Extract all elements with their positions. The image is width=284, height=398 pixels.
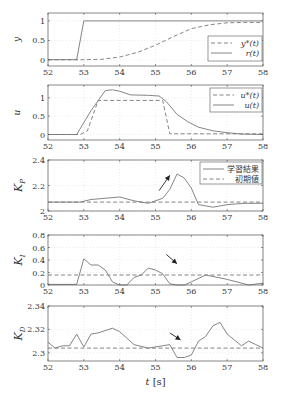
y-tick-label: 2.3 (32, 349, 45, 358)
x-tick-label: 57 (222, 287, 232, 296)
x-tick-label: 55 (150, 287, 160, 296)
x-tick-label: 53 (79, 142, 89, 151)
x-tick-label: 54 (115, 213, 125, 222)
subplot-ki: 5253545556575800.20.40.60.8KI (12, 231, 268, 296)
x-tick-label: 55 (150, 142, 160, 151)
x-tick-label: 52 (43, 142, 53, 151)
legend-label: 初期値 (235, 174, 259, 184)
x-tick-label: 53 (79, 68, 89, 77)
annotation-arrow-icon (166, 254, 177, 263)
y-tick-label: 0.2 (32, 269, 45, 278)
x-tick-label: 57 (222, 363, 232, 372)
x-tick-label: 54 (115, 142, 125, 151)
y-tick-label: 2.4 (32, 156, 45, 165)
y-tick-label: 0 (40, 56, 45, 65)
annotation-arrow-icon (159, 175, 170, 190)
x-tick-label: 56 (186, 213, 196, 222)
x-tick-label: 52 (43, 68, 53, 77)
x-tick-label: 58 (258, 363, 268, 372)
x-tick-label: 55 (150, 363, 160, 372)
legend-label: 学習結果 (227, 164, 259, 174)
x-tick-label: 56 (186, 142, 196, 151)
y-tick-label: 1 (40, 17, 45, 26)
x-tick-label: 56 (186, 68, 196, 77)
y-tick-label: 0.5 (32, 112, 45, 121)
y-axis-label: KD (12, 326, 27, 341)
y-tick-label: 0.4 (32, 256, 45, 265)
x-tick-label: 58 (258, 287, 268, 296)
legend-label: y*(t) (240, 39, 259, 48)
x-tick-label: 53 (79, 287, 89, 296)
x-tick-label: 53 (79, 213, 89, 222)
y-tick-label: 0 (40, 131, 45, 140)
subplot-u: 5253545556575800.51uu*(t)u(t) (12, 85, 268, 151)
x-tick-label: 55 (150, 213, 160, 222)
x-tick-label: 57 (222, 68, 232, 77)
x-tick-label: 57 (222, 213, 232, 222)
annotation-arrow-icon (170, 333, 181, 340)
x-tick-label: 58 (258, 213, 268, 222)
legend: u*(t)u(t) (210, 88, 262, 112)
subplot-kp: 5253545556575822.22.4KP学習結果初期値 (12, 156, 268, 222)
subplot-kd: 525354555657582.32.322.34KD (12, 302, 268, 372)
x-tick-label: 57 (222, 142, 232, 151)
x-tick-label: 53 (79, 363, 89, 372)
y-tick-label: 2.2 (32, 182, 45, 191)
y-tick-label: 0 (40, 281, 45, 290)
legend-label: u*(t) (240, 91, 259, 100)
y-axis-label: KI (12, 254, 27, 266)
figure: 5253545556575800.51yy*(t)r(t)52535455565… (0, 0, 284, 398)
x-tick-label: 54 (115, 68, 125, 77)
x-tick-label: 52 (43, 363, 53, 372)
y-tick-label: 2.34 (27, 302, 45, 311)
x-tick-label: 56 (186, 287, 196, 296)
y-axis-label: y (12, 36, 22, 43)
x-tick-label: 54 (115, 363, 125, 372)
y-tick-label: 0.5 (32, 36, 45, 45)
y-tick-label: 1 (40, 94, 45, 103)
legend-label: u(t) (244, 101, 259, 110)
subplot-y: 5253545556575800.51yy*(t)r(t) (12, 13, 268, 77)
x-tick-label: 55 (150, 68, 160, 77)
legend: y*(t)r(t) (208, 36, 262, 61)
x-tick-label: 58 (258, 142, 268, 151)
x-tick-label: 56 (186, 363, 196, 372)
y-tick-label: 0.8 (32, 231, 45, 240)
x-tick-label: 58 (258, 68, 268, 77)
y-axis-label: u (12, 109, 22, 115)
x-tick-label: 54 (115, 287, 125, 296)
y-tick-label: 2.32 (27, 325, 45, 334)
legend-label: r(t) (246, 49, 259, 58)
y-tick-label: 0.6 (32, 244, 45, 253)
legend: 学習結果初期値 (200, 162, 262, 184)
y-tick-label: 2 (40, 207, 45, 216)
x-axis-label: t [s] (145, 376, 165, 387)
y-axis-label: KP (12, 179, 27, 193)
